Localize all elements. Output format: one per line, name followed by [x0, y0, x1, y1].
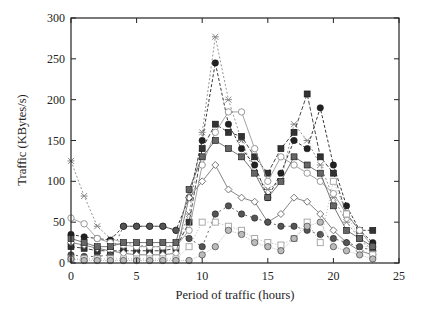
data-point-marker: [265, 178, 271, 184]
data-point-marker: [251, 198, 258, 205]
data-point-marker: [120, 223, 126, 229]
data-point-marker: [330, 170, 336, 176]
data-point-marker: [81, 240, 87, 246]
data-point-marker: [212, 243, 218, 249]
data-point-marker: [317, 240, 323, 246]
data-point-marker: [291, 154, 297, 160]
data-point-marker: [343, 248, 349, 254]
data-point-marker: [370, 244, 376, 250]
data-point-marker: [225, 227, 231, 233]
data-point-marker: [225, 146, 231, 152]
x-axis-title: Period of traffic (hours): [176, 288, 295, 302]
data-point-marker: [265, 219, 271, 225]
data-point-marker: [239, 133, 245, 139]
data-point-marker: [225, 109, 231, 115]
data-point-marker: [265, 195, 271, 201]
data-point-marker: [265, 243, 271, 249]
data-point-marker: [252, 170, 258, 176]
x-tick-label: 5: [134, 269, 140, 283]
series-s3-filled-square: [68, 91, 376, 254]
data-point-marker: [199, 252, 205, 258]
y-tick-label: 0: [59, 256, 65, 270]
y-tick-label: 300: [47, 11, 65, 25]
data-point-marker: [356, 227, 362, 233]
data-point-marker: [356, 252, 362, 258]
data-point-marker: [291, 129, 297, 135]
y-tick-label: 100: [47, 174, 65, 188]
data-point-marker: [330, 203, 336, 209]
data-point-marker: [107, 244, 113, 250]
data-point-marker: [278, 170, 284, 176]
data-point-marker: [199, 137, 205, 143]
data-point-marker: [212, 60, 218, 66]
data-point-marker: [239, 154, 245, 160]
data-point-marker: [304, 223, 310, 229]
data-point-marker: [238, 109, 244, 115]
data-point-marker: [330, 243, 336, 249]
data-point-marker: [212, 121, 218, 127]
y-axis-title: Traffic (KBytes/s): [15, 94, 29, 185]
data-point-marker: [81, 234, 87, 240]
data-point-marker: [304, 138, 311, 144]
data-point-marker: [147, 240, 153, 246]
data-point-marker: [317, 170, 323, 176]
data-point-marker: [304, 145, 310, 151]
data-point-marker: [173, 240, 179, 246]
data-point-marker: [81, 193, 88, 199]
data-point-marker: [251, 162, 257, 168]
data-point-marker: [317, 231, 323, 237]
y-tick-label: 50: [53, 215, 65, 229]
x-tick-label: 15: [262, 269, 274, 283]
series-s9-mid: [68, 138, 376, 250]
data-point-marker: [291, 235, 297, 241]
data-point-marker: [343, 239, 349, 245]
data-point-marker: [304, 162, 310, 168]
data-point-marker: [186, 227, 192, 233]
data-point-marker: [330, 235, 336, 241]
data-point-marker: [186, 187, 192, 193]
data-point-marker: [278, 146, 284, 152]
data-point-marker: [147, 223, 153, 229]
data-point-marker: [251, 215, 257, 221]
data-point-marker: [238, 194, 245, 201]
data-point-marker: [199, 243, 205, 249]
data-point-marker: [278, 248, 284, 254]
data-point-marker: [133, 223, 139, 229]
data-point-marker: [291, 223, 297, 229]
data-point-marker: [212, 129, 218, 135]
data-point-marker: [94, 223, 101, 229]
y-tick-label: 250: [47, 52, 65, 66]
data-point-marker: [160, 223, 166, 229]
data-point-marker: [330, 178, 336, 184]
data-point-marker: [225, 121, 231, 127]
data-point-marker: [357, 236, 363, 242]
data-point-marker: [212, 211, 218, 217]
series-s2-filled-circle: [68, 60, 376, 246]
data-point-marker: [330, 162, 336, 168]
data-point-marker: [304, 170, 310, 176]
data-point-marker: [278, 242, 284, 248]
data-point-marker: [186, 244, 192, 250]
data-point-marker: [199, 219, 205, 225]
data-point-marker: [278, 178, 284, 184]
data-point-marker: [278, 223, 284, 229]
data-point-marker: [344, 211, 350, 217]
y-tick-label: 200: [47, 93, 65, 107]
data-point-marker: [291, 162, 297, 168]
data-point-marker: [225, 186, 232, 193]
data-point-marker: [225, 97, 232, 103]
data-point-marker: [251, 145, 257, 151]
y-tick-label: 150: [47, 134, 65, 148]
data-point-marker: [304, 91, 310, 97]
data-point-marker: [81, 221, 87, 227]
data-point-marker: [199, 154, 205, 160]
data-point-marker: [212, 219, 218, 225]
data-point-marker: [370, 227, 376, 233]
x-tick-label: 0: [68, 269, 74, 283]
data-point-marker: [330, 190, 336, 196]
data-point-marker: [225, 129, 231, 135]
data-point-marker: [160, 240, 166, 246]
data-point-marker: [238, 231, 244, 237]
series-s1-star: [68, 34, 377, 254]
data-point-marker: [356, 243, 362, 249]
